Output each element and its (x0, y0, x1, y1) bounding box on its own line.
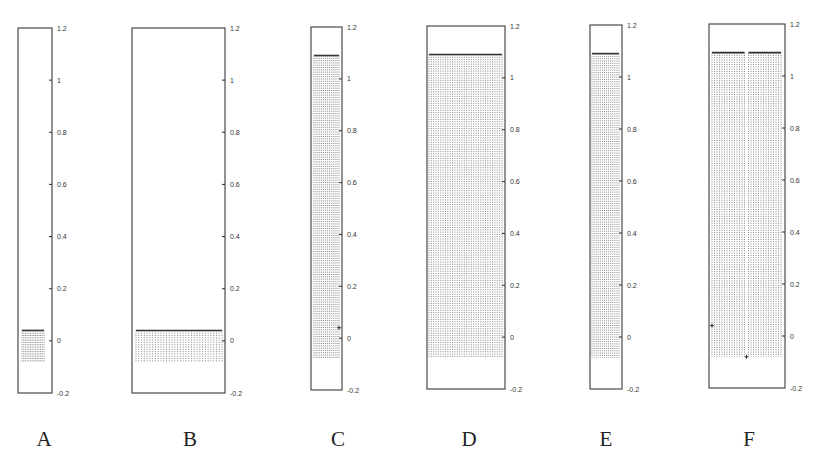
y-tick-label: 0 (627, 334, 631, 341)
y-tick-label: 1.2 (230, 25, 240, 32)
y-tick-label: -0.2 (510, 386, 522, 393)
y-tick-label: 0 (510, 334, 514, 341)
panel-a: 1.210.80.60.40.20-0.2A (18, 25, 69, 452)
y-tick-label: 0.6 (510, 178, 520, 185)
y-tick-label: 0.4 (510, 230, 520, 237)
y-tick-label: 0 (790, 333, 794, 340)
y-tick-label: 0.8 (790, 125, 800, 132)
y-tick-label: 0.8 (57, 129, 67, 136)
figure-panels: 1.210.80.60.40.20-0.2A1.210.80.60.40.20-… (0, 0, 819, 464)
y-tick-label: 0.4 (790, 229, 800, 236)
y-tick-label: 1.2 (347, 24, 357, 31)
y-tick-label: 1 (790, 73, 794, 80)
y-tick-label: 0.2 (790, 281, 800, 288)
panel-label: F (743, 427, 755, 451)
y-tick-label: 0.8 (627, 126, 637, 133)
panel-label: C (331, 427, 345, 451)
y-tick-label: 0.8 (230, 129, 240, 136)
y-tick-label: 0.6 (790, 177, 800, 184)
y-tick-label: 0.2 (230, 285, 240, 292)
panel-label: A (36, 427, 52, 451)
y-tick-label: 1 (627, 74, 631, 81)
panel-c: 1.210.80.60.40.20-0.2C (311, 24, 359, 452)
y-tick-label: 0.2 (57, 285, 67, 292)
y-tick-label: 0 (347, 335, 351, 342)
y-tick-label: 0.4 (627, 230, 637, 237)
panel-f: 1.210.80.60.40.20-0.2F (709, 21, 802, 452)
y-tick-label: -0.2 (57, 390, 69, 397)
y-tick-label: -0.2 (230, 390, 242, 397)
y-tick-label: 0.6 (57, 181, 67, 188)
y-tick-label: -0.2 (347, 387, 359, 394)
y-tick-label: 0 (57, 337, 61, 344)
y-tick-label: 0.2 (627, 282, 637, 289)
y-tick-label: -0.2 (627, 386, 639, 393)
y-tick-label: 0.8 (347, 127, 357, 134)
y-tick-label: 0.4 (347, 231, 357, 238)
y-tick-label: 1.2 (57, 25, 67, 32)
panel-label: E (600, 427, 613, 451)
panel-b: 1.210.80.60.40.20-0.2B (132, 25, 242, 452)
y-tick-label: 0.2 (347, 283, 357, 290)
y-tick-label: 0.8 (510, 126, 520, 133)
y-tick-label: -0.2 (790, 385, 802, 392)
y-tick-label: 1 (347, 75, 351, 82)
y-tick-label: 0 (230, 337, 234, 344)
y-tick-label: 1 (57, 77, 61, 84)
y-tick-label: 0.2 (510, 282, 520, 289)
plot-frame (18, 28, 52, 393)
panel-label: B (183, 427, 197, 451)
y-tick-label: 0.6 (627, 178, 637, 185)
y-tick-label: 1 (230, 77, 234, 84)
y-tick-label: 1.2 (790, 21, 800, 28)
y-tick-label: 0.6 (230, 181, 240, 188)
panel-e: 1.210.80.60.40.20-0.2E (590, 22, 639, 452)
panel-d: 1.210.80.60.40.20-0.2D (427, 23, 522, 452)
y-tick-label: 0.6 (347, 179, 357, 186)
y-tick-label: 1.2 (627, 22, 637, 29)
y-tick-label: 1.2 (510, 23, 520, 30)
y-tick-label: 1 (510, 74, 514, 81)
y-tick-label: 0.4 (57, 233, 67, 240)
y-tick-label: 0.4 (230, 233, 240, 240)
panel-label: D (461, 427, 476, 451)
